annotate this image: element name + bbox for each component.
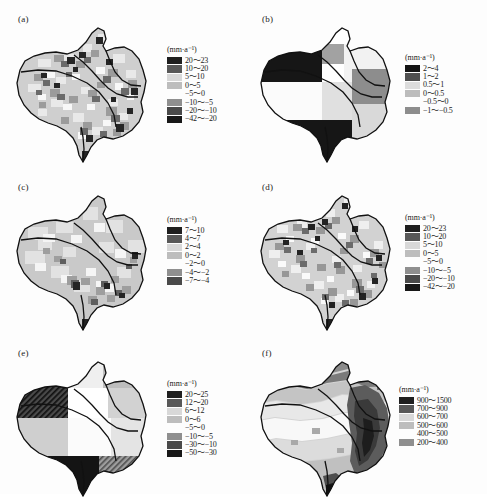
legend-swatch xyxy=(167,57,182,64)
legend-swatch xyxy=(405,99,420,106)
legend-label: 200～400 xyxy=(417,439,448,447)
legend-swatch xyxy=(167,91,182,98)
legend-swatch xyxy=(167,82,182,89)
panel-a-legend: (mm·a⁻¹) 20～23 10～20 5～10 0～5 −5～0 −10～−… xyxy=(167,46,217,124)
legend-swatch xyxy=(405,250,420,257)
panel-c-map xyxy=(8,192,158,338)
legend-item: −50～−30 xyxy=(167,449,217,457)
legend-swatch xyxy=(405,107,420,114)
legend-swatch xyxy=(167,408,182,415)
legend-swatch xyxy=(167,261,182,268)
legend-swatch xyxy=(405,259,420,266)
legend-swatch xyxy=(399,439,414,446)
panel-c: (c) xyxy=(0,176,243,340)
panel-f-map xyxy=(252,358,402,501)
panel-d-legend-unit: (mm·a⁻¹) xyxy=(405,214,455,222)
panel-d-map xyxy=(252,192,402,338)
legend-swatch xyxy=(167,107,182,114)
legend-swatch xyxy=(167,235,182,242)
legend-item: −42～−20 xyxy=(405,283,455,291)
legend-swatch xyxy=(405,284,420,291)
legend-swatch xyxy=(167,277,182,284)
legend-swatch xyxy=(167,65,182,72)
panel-a-map xyxy=(8,24,158,170)
legend-swatch xyxy=(405,233,420,240)
legend-swatch xyxy=(405,82,420,89)
panel-a-label: (a) xyxy=(18,14,29,24)
legend-label: −7～−4 xyxy=(185,277,209,285)
legend-swatch xyxy=(167,269,182,276)
panel-e-label: (e) xyxy=(18,348,29,358)
legend-swatch xyxy=(399,431,414,438)
legend-swatch xyxy=(405,267,420,274)
panel-e-legend-unit: (mm·a⁻¹) xyxy=(167,380,217,388)
panel-c-label: (c) xyxy=(18,182,29,192)
legend-swatch xyxy=(167,416,182,423)
legend-swatch xyxy=(405,225,420,232)
legend-swatch xyxy=(167,74,182,81)
legend-swatch xyxy=(399,414,414,421)
panel-c-legend-unit: (mm·a⁻¹) xyxy=(167,216,209,224)
panel-b: (b) xyxy=(244,8,487,172)
panel-a-legend-unit: (mm·a⁻¹) xyxy=(167,46,217,54)
legend-swatch xyxy=(405,275,420,282)
panel-b-map xyxy=(252,24,402,170)
legend-swatch xyxy=(399,397,414,404)
panel-c-legend: (mm·a⁻¹) 7～10 4～7 2～4 0～2 −2～0 −4～−2 −7～… xyxy=(167,216,209,285)
panel-e: (e) xyxy=(0,342,243,501)
panel-b-legend-unit: (mm·a⁻¹) xyxy=(405,54,453,62)
panel-f-legend: (mm·a⁻¹) 900～1500 700～900 600～700 500～60… xyxy=(399,386,451,447)
legend-item: −7～−4 xyxy=(167,277,209,285)
panel-f-legend-unit: (mm·a⁻¹) xyxy=(399,386,451,394)
panel-e-map xyxy=(8,358,158,501)
legend-label: −50～−30 xyxy=(185,449,217,457)
panel-f: (f) xyxy=(244,342,487,501)
legend-swatch xyxy=(405,73,420,80)
panel-f-label: (f) xyxy=(262,348,272,358)
legend-swatch xyxy=(167,227,182,234)
legend-item: −42～−20 xyxy=(167,115,217,123)
legend-swatch xyxy=(405,65,420,72)
legend-swatch xyxy=(405,242,420,249)
legend-item: 200～400 xyxy=(399,438,451,446)
legend-swatch xyxy=(167,441,182,448)
legend-item: −1～−0.5 xyxy=(405,106,453,114)
legend-swatch xyxy=(167,450,182,457)
panel-b-label: (b) xyxy=(262,14,273,24)
panel-d-legend: (mm·a⁻¹) 20～23 10～20 5～10 0～5 −5～0 −10～−… xyxy=(405,214,455,292)
legend-swatch xyxy=(405,90,420,97)
legend-label: −42～−20 xyxy=(185,115,217,123)
panel-e-legend: (mm·a⁻¹) 20～25 12～20 6～12 0～6 −5～0 −10～−… xyxy=(167,380,217,458)
legend-swatch xyxy=(167,252,182,259)
legend-swatch xyxy=(399,405,414,412)
legend-swatch xyxy=(399,422,414,429)
legend-swatch xyxy=(167,433,182,440)
panel-b-legend: (mm·a⁻¹) 2～4 1～2 0.5～1 0～0.5 −0.5～0 −1～−… xyxy=(405,54,453,115)
panel-d: (d) xyxy=(244,176,487,340)
legend-swatch xyxy=(167,244,182,251)
panel-d-label: (d) xyxy=(262,182,273,192)
panel-a: (a) xyxy=(0,8,243,172)
legend-swatch xyxy=(167,425,182,432)
legend-swatch xyxy=(167,116,182,123)
legend-swatch xyxy=(167,391,182,398)
legend-swatch xyxy=(167,399,182,406)
legend-swatch xyxy=(167,99,182,106)
legend-label: −42～−20 xyxy=(423,283,455,291)
legend-label: −1～−0.5 xyxy=(423,107,453,115)
